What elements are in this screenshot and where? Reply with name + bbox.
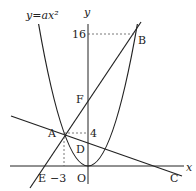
tick-4: 4 [90, 127, 97, 140]
line-ab [30, 22, 141, 188]
line-ac [11, 116, 182, 176]
diagram-svg: y=ax² y x 16 4 −3 B A F D E O C [0, 0, 196, 191]
tick-16: 16 [72, 28, 86, 41]
curve-label: y=ax² [25, 9, 59, 22]
origin-label: O [77, 172, 86, 185]
point-a-label: A [47, 127, 57, 140]
point-c-label: C [170, 172, 178, 185]
point-b-label: B [138, 34, 146, 47]
math-diagram: y=ax² y x 16 4 −3 B A F D E O C [0, 0, 196, 191]
tick-minus3: −3 [50, 172, 66, 185]
point-d-label: D [76, 143, 85, 156]
x-axis-label: x [186, 161, 193, 174]
y-axis-label: y [83, 6, 91, 19]
point-e-label: E [38, 172, 46, 185]
point-f-label: F [76, 93, 84, 106]
